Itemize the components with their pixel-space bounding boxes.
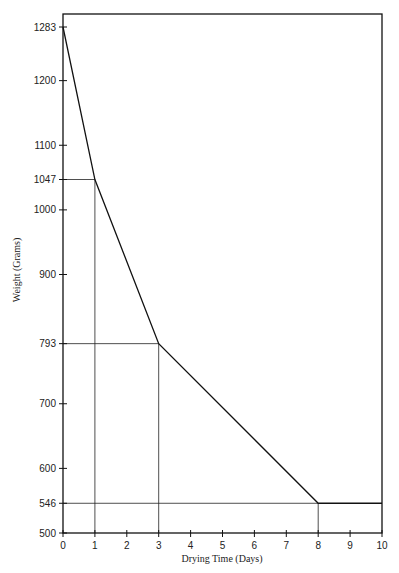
x-tick-label: 2 xyxy=(124,540,130,551)
x-tick-label: 4 xyxy=(188,540,194,551)
y-tick-label: 1047 xyxy=(34,174,57,185)
x-axis-title: Drying Time (Days) xyxy=(181,553,262,565)
weight-drying-chart: 50054660070079390010001047110012001283 0… xyxy=(0,0,399,573)
y-tick-label: 700 xyxy=(39,398,56,409)
y-tick-label: 500 xyxy=(39,528,56,539)
x-tick-label: 1 xyxy=(92,540,98,551)
y-tick-label: 1200 xyxy=(34,75,57,86)
plot-frame xyxy=(63,14,382,533)
y-tick-label: 600 xyxy=(39,463,56,474)
x-tick-label: 3 xyxy=(156,540,162,551)
x-tick-label: 0 xyxy=(60,540,66,551)
y-axis-ticks: 50054660070079390010001047110012001283 xyxy=(34,22,67,539)
x-tick-label: 7 xyxy=(284,540,290,551)
reference-lines xyxy=(63,180,318,533)
y-tick-label: 546 xyxy=(39,498,56,509)
y-tick-label: 793 xyxy=(39,338,56,349)
x-tick-label: 9 xyxy=(347,540,353,551)
x-tick-label: 6 xyxy=(252,540,258,551)
y-tick-label: 1100 xyxy=(34,140,56,151)
y-tick-label: 1000 xyxy=(34,204,57,215)
plot-border xyxy=(63,14,382,533)
x-tick-label: 8 xyxy=(315,540,321,551)
series-line xyxy=(63,27,382,503)
y-tick-label: 1283 xyxy=(34,22,57,33)
y-tick-label: 900 xyxy=(39,269,56,280)
x-tick-label: 10 xyxy=(376,540,388,551)
data-series xyxy=(63,27,382,503)
x-tick-label: 5 xyxy=(220,540,226,551)
y-axis-title: Weight (Grams) xyxy=(11,238,23,302)
